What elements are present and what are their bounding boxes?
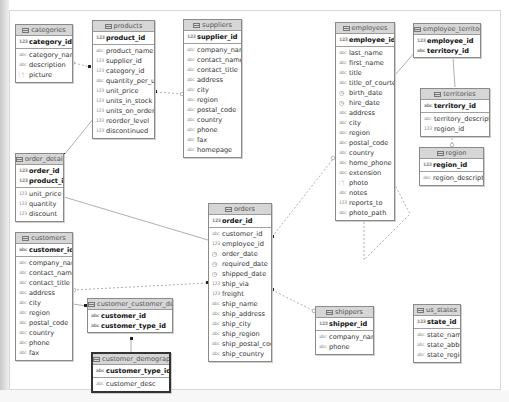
column-row[interactable]: 123region_id [421,124,489,134]
column-row[interactable]: abcfirst_name [336,58,394,68]
column-row[interactable]: abcfax [16,348,72,358]
column-row[interactable]: abcextension [336,168,394,178]
column-row[interactable]: abcpostal_code [184,105,241,115]
column-row[interactable]: abccontact_name [184,55,241,65]
column-row[interactable]: abccity [16,298,72,308]
column-row[interactable]: abcstate_region [414,350,460,360]
column-row[interactable]: 123reports_to [336,198,394,208]
column-row[interactable]: 123order_id [16,166,63,176]
column-row[interactable]: abcship_address [209,309,271,319]
column-row[interactable]: 123shipper_id [316,319,373,329]
column-row[interactable]: ◷hire_date [336,98,394,108]
column-row[interactable]: abcregion [336,128,394,138]
column-row[interactable]: 123unit_price [93,86,154,96]
column-row[interactable]: 🗋photo [336,178,394,188]
column-row[interactable]: abclast_name [336,48,394,58]
entity-products[interactable]: products 123product_id abcproduct_name 1… [92,20,155,139]
column-row[interactable]: abcquantity_per_unit [93,76,154,86]
column-row[interactable]: abcaddress [16,288,72,298]
column-row[interactable]: abcship_city [209,319,271,329]
entity-customer-demographics[interactable]: customer_demographics abccustomer_type_i… [91,352,171,393]
column-row[interactable]: 123discontinued [93,126,154,136]
column-row[interactable]: ◷birth_date [336,88,394,98]
column-row[interactable]: 123state_id [414,317,460,327]
column-row[interactable]: abcaddress [336,108,394,118]
entity-territories[interactable]: territories abcterritory_id abcterritory… [420,88,490,137]
column-row[interactable]: abccontact_title [184,65,241,75]
entity-employees[interactable]: employees 123employee_id abclast_name ab… [335,22,395,221]
column-row[interactable]: abccustomer_type_id [88,321,172,331]
column-row[interactable]: abcterritory_id [421,101,489,111]
column-row[interactable]: abchome_phone [336,158,394,168]
entity-order-details[interactable]: order_details 123order_id 123product_id … [15,153,64,222]
column-row[interactable]: abccustomer_id [16,245,72,255]
column-row[interactable]: 123reorder_level [93,116,154,126]
column-row[interactable]: abccustomer_desc [93,379,169,389]
column-row[interactable]: abctitle_of_courtesy [336,78,394,88]
column-row[interactable]: abccity [336,118,394,128]
entity-categories[interactable]: categories 123category_id abccategory_na… [15,24,73,83]
entity-us-states[interactable]: us_states 123state_id abcstate_name abcs… [413,304,461,363]
column-row[interactable]: abcship_region [209,329,271,339]
column-row[interactable]: 123units_in_stock [93,96,154,106]
column-row[interactable]: abccustomer_type_id [93,366,169,376]
column-row[interactable]: 123units_on_order [93,106,154,116]
entity-shippers[interactable]: shippers 123shipper_id abccompany_name a… [315,306,374,355]
column-row[interactable]: abccountry [336,148,394,158]
column-row[interactable]: 123employee_id [414,36,480,46]
column-row[interactable]: 123order_id [209,216,271,226]
column-row[interactable]: abccontact_name [16,268,72,278]
column-row[interactable]: abcregion [184,95,241,105]
column-row[interactable]: 123supplier_id [93,56,154,66]
column-row[interactable]: abcship_postal_code [209,339,271,349]
column-row[interactable]: abccustomer_id [88,311,172,321]
column-row[interactable]: abccity [184,85,241,95]
column-row[interactable]: abcterritory_id [414,46,480,56]
column-row[interactable]: abcstate_abbr [414,340,460,350]
column-row[interactable]: 123category_id [93,66,154,76]
column-row[interactable]: 123ship_via [209,279,271,289]
column-row[interactable]: abcship_country [209,349,271,359]
column-row[interactable]: abcproduct_name [93,46,154,56]
column-row[interactable]: ◷order_date [209,249,271,259]
column-row[interactable]: abcnotes [336,188,394,198]
column-row[interactable]: 123employee_id [336,35,394,45]
column-row[interactable]: abccategory_name [16,50,72,60]
column-row[interactable]: 123freight [209,289,271,299]
column-row[interactable]: abcstate_name [414,330,460,340]
column-row[interactable]: abcregion [16,308,72,318]
column-row[interactable]: ◷shipped_date [209,269,271,279]
column-row[interactable]: abccompany_name [184,45,241,55]
column-row[interactable]: 123region_id [420,160,483,170]
column-row[interactable]: 123product_id [93,33,154,43]
entity-customer-customer-demo[interactable]: customer_customer_demo abccustomer_id ab… [87,298,173,333]
column-row[interactable]: 123unit_price [16,189,63,199]
column-row[interactable]: 123supplier_id [184,32,241,42]
column-row[interactable]: abcpostal_code [16,318,72,328]
column-row[interactable]: abccountry [184,115,241,125]
column-row[interactable]: 🗋picture [16,70,72,80]
entity-orders[interactable]: orders 123order_id abccustomer_id 123emp… [208,203,272,362]
column-row[interactable]: abcphone [16,338,72,348]
column-row[interactable]: abccompany_name [16,258,72,268]
column-row[interactable]: abcfax [184,135,241,145]
column-row[interactable]: abcterritory_description [421,114,489,124]
column-row[interactable]: abcpostal_code [336,138,394,148]
column-row[interactable]: abccompany_name [316,332,373,342]
entity-region[interactable]: region 123region_id abcregion_descriptio… [419,147,484,186]
column-row[interactable]: abcaddress [184,75,241,85]
column-row[interactable]: 123product_id [16,176,63,186]
column-row[interactable]: abcship_name [209,299,271,309]
entity-customers[interactable]: customers abccustomer_id abccompany_name… [15,232,73,361]
entity-suppliers[interactable]: suppliers 123supplier_id abccompany_name… [183,19,242,158]
column-row[interactable]: 123employee_id [209,239,271,249]
column-row[interactable]: abcregion_description [420,173,483,183]
column-row[interactable]: abccontact_title [16,278,72,288]
column-row[interactable]: abchomepage [184,145,241,155]
column-row[interactable]: abccountry [16,328,72,338]
column-row[interactable]: abcdescription [16,60,72,70]
column-row[interactable]: abctitle [336,68,394,78]
column-row[interactable]: 123quantity [16,199,63,209]
column-row[interactable]: 123discount [16,209,63,219]
column-row[interactable]: ◷required_date [209,259,271,269]
